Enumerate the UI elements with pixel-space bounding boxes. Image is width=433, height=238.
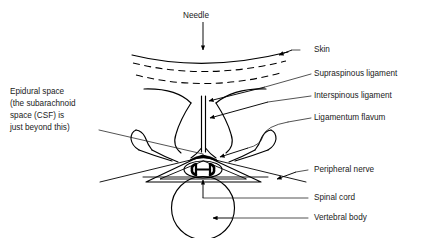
label-epidural-space-line3: space (CSF) is xyxy=(10,111,64,120)
leader-epidural-space xyxy=(99,130,203,154)
leader-spinal-cord xyxy=(203,180,308,198)
label-supraspinous-ligament: Supraspinous ligament xyxy=(314,69,398,78)
label-epidural-space-line4: just beyond this) xyxy=(9,123,70,132)
label-peripheral-nerve: Peripheral nerve xyxy=(314,165,375,174)
label-epidural-space: Epidural space (the subarachnoid space (… xyxy=(9,87,76,132)
epidural-anatomy-diagram: Needle Skin Supraspinous ligament Inters… xyxy=(0,0,433,238)
label-interspinous-ligament: Interspinous ligament xyxy=(314,91,393,100)
label-ligamentum-flavum: Ligamentum flavum xyxy=(314,113,386,122)
leader-supraspinous-ligament xyxy=(209,74,311,101)
label-epidural-space-line1: Epidural space xyxy=(10,87,65,96)
label-needle: Needle xyxy=(183,11,209,20)
spinous-process-stem xyxy=(191,96,216,158)
diagram-canvas: Needle Skin Supraspinous ligament Inters… xyxy=(0,0,433,238)
label-skin: Skin xyxy=(314,45,330,54)
label-epidural-space-line2: (the subarachnoid xyxy=(10,99,76,108)
label-spinal-cord: Spinal cord xyxy=(314,193,355,202)
leader-skin xyxy=(279,50,300,55)
spinal-cord-ellipse xyxy=(184,161,222,178)
skin-surface-curves xyxy=(132,52,288,84)
butterfly-grey-matter xyxy=(192,164,214,175)
label-vertebral-body: Vertebral body xyxy=(314,213,368,222)
leader-peripheral-nerve xyxy=(277,170,308,179)
leader-interspinous-ligament xyxy=(210,96,311,118)
